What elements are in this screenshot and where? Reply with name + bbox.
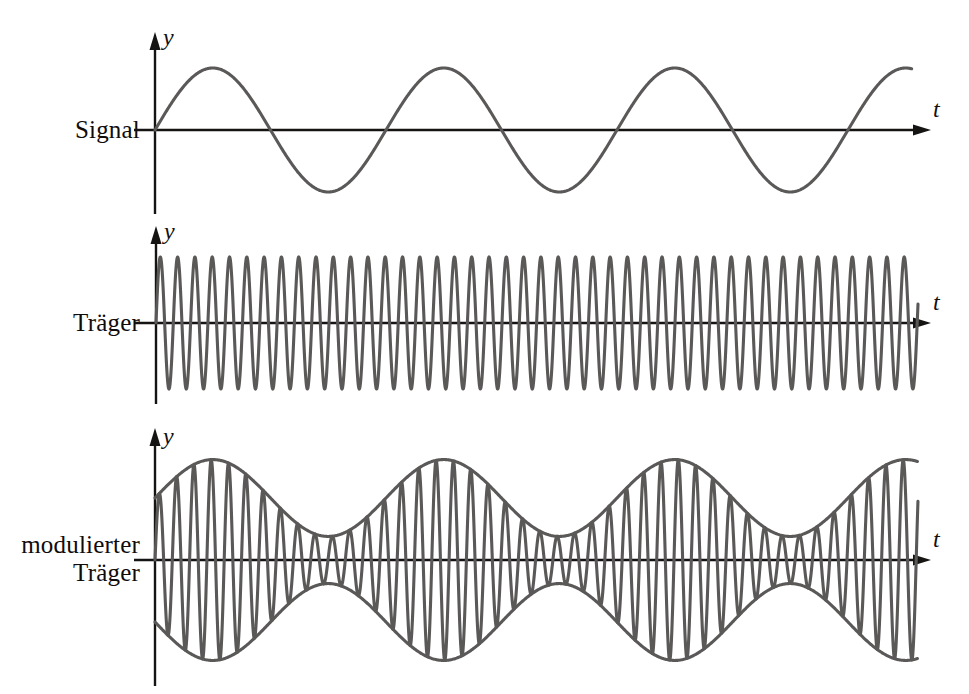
modulated-y-axis-arrow <box>150 428 161 446</box>
amplitude-modulation-figure: Signal y t Träger y t <box>0 0 969 694</box>
modulated-envelope-upper <box>155 460 917 537</box>
modulated-carrier-plot <box>0 0 969 694</box>
